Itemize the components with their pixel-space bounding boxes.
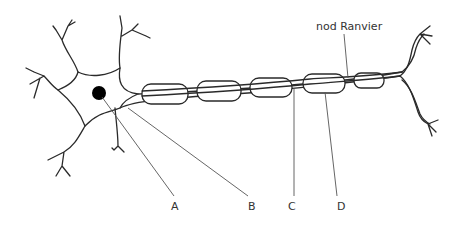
label-a: A bbox=[171, 200, 179, 213]
leader-line-a bbox=[102, 97, 174, 196]
nucleus bbox=[92, 86, 106, 100]
dendrite bbox=[53, 20, 78, 72]
leader-line-b bbox=[128, 108, 248, 196]
neuron-diagram: A B C D nod Ranvier bbox=[0, 0, 463, 225]
axon-terminal bbox=[400, 76, 438, 136]
axon-terminal bbox=[402, 34, 424, 72]
label-node-ranvier: nod Ranvier bbox=[316, 20, 383, 33]
label-c: C bbox=[288, 200, 296, 213]
label-d: D bbox=[337, 200, 345, 213]
dendrite bbox=[112, 108, 124, 152]
axon-terminal bbox=[402, 80, 430, 124]
dendrite bbox=[26, 68, 58, 98]
label-b: B bbox=[248, 200, 256, 213]
axon-terminal bbox=[400, 26, 432, 76]
dendrite bbox=[119, 16, 150, 68]
leader-line-node bbox=[344, 34, 348, 78]
dendrite bbox=[48, 126, 85, 176]
leader-line-d bbox=[325, 92, 337, 196]
